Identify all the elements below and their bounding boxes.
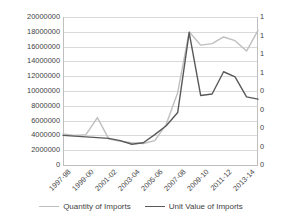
legend-entry[interactable]: Quantity of Imports (39, 202, 131, 211)
legend-entry[interactable]: Unit Value of Imports (145, 202, 243, 211)
chart-legend: Quantity of ImportsUnit Value of Imports (0, 198, 282, 214)
series-line (63, 30, 258, 143)
legend-swatch-icon (145, 206, 165, 207)
legend-label: Unit Value of Imports (169, 202, 243, 211)
legend-swatch-icon (39, 206, 59, 207)
series-line (63, 33, 258, 145)
data-series-layer (0, 0, 282, 224)
legend-label: Quantity of Imports (63, 202, 131, 211)
imports-line-chart: 2000000018000000160000001400000012000000… (0, 0, 282, 224)
